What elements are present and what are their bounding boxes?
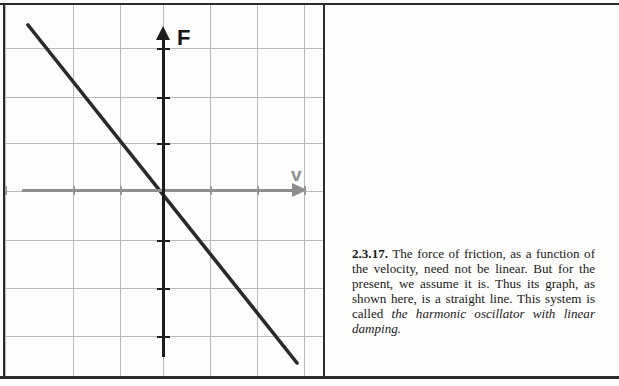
caption-number: 2.3.17. xyxy=(352,246,388,261)
caption-block: 2.3.17. The force of friction, as a func… xyxy=(352,246,595,337)
velocity-axis-line xyxy=(22,189,294,192)
force-axis-label: F xyxy=(177,27,190,49)
figure-caption-divider xyxy=(323,3,325,378)
force-axis-arrow-icon xyxy=(156,26,170,40)
velocity-axis-tick-0 xyxy=(5,186,7,195)
velocity-axis-arrow-icon xyxy=(292,183,307,197)
graph-figure: v F xyxy=(5,5,323,376)
caption-paragraph: 2.3.17. The force of friction, as a func… xyxy=(352,246,595,337)
page-bottom-rule xyxy=(0,376,619,379)
figure-page: v F 2.3.17. The force of friction, as a … xyxy=(0,0,619,386)
velocity-axis-label: v xyxy=(291,165,302,184)
force-axis-line xyxy=(162,35,165,357)
